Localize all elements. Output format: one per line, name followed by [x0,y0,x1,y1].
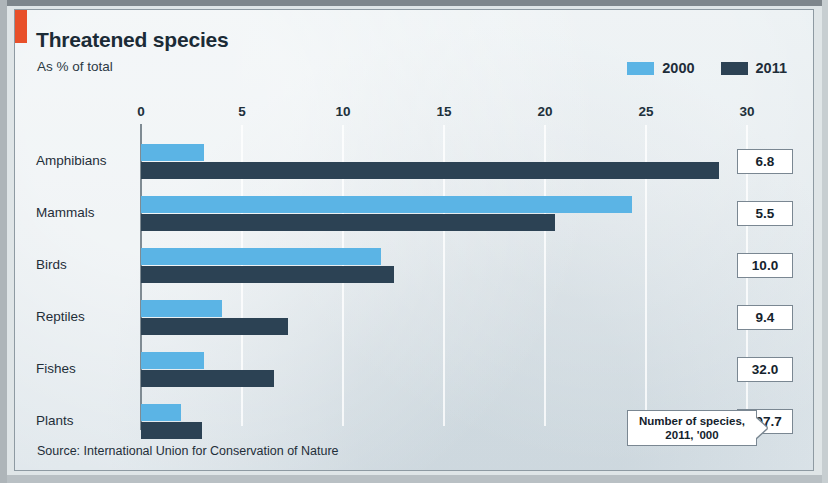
page-edge-left [0,0,7,483]
bar-birds-2000 [141,248,381,265]
bar-group-reptiles: Reptiles9.4 [15,300,814,340]
accent-tab [15,10,27,43]
category-label-fishes: Fishes [36,361,76,376]
species-count-box-mammals: 5.5 [737,201,793,226]
x-tick-label-15: 15 [436,104,451,119]
bar-group-fishes: Fishes32.0 [15,352,814,392]
bar-fishes-2000 [141,352,204,369]
plot-area: 051015202530 Amphibians6.8Mammals5.5Bird… [15,96,814,426]
chart-legend: 20002011 [627,60,787,76]
legend-label-2011: 2011 [756,60,787,76]
legend-item-2000: 2000 [627,60,694,76]
annotation-callout: Number of species, 2011, '000 [627,410,757,446]
bar-mammals-2011 [141,214,555,231]
source-note: Source: International Union for Conserva… [37,444,339,458]
page-edge-right [822,0,828,483]
legend-swatch-2000 [627,62,654,75]
x-tick-label-5: 5 [238,104,246,119]
bar-plants-2000 [141,404,181,421]
page-edge-bottom [0,475,828,483]
species-count-box-fishes: 32.0 [737,357,793,382]
bar-mammals-2000 [141,196,632,213]
annotation-line-2: 2011, '000 [665,428,718,442]
legend-item-2011: 2011 [721,60,787,76]
bar-plants-2011 [141,422,202,439]
species-count-box-amphibians: 6.8 [737,149,793,174]
x-tick-label-25: 25 [638,104,653,119]
bar-fishes-2011 [141,370,274,387]
legend-label-2000: 2000 [662,60,694,76]
chart-panel: Threatened species As % of total 2000201… [14,9,814,471]
legend-swatch-2011 [721,62,748,75]
chart-subtitle: As % of total [37,59,113,74]
chart-header: Threatened species As % of total 2000201… [15,10,814,96]
category-label-amphibians: Amphibians [36,153,107,168]
x-tick-label-20: 20 [537,104,552,119]
scanned-page: Threatened species As % of total 2000201… [0,0,828,483]
bar-group-birds: Birds10.0 [15,248,814,288]
bar-reptiles-2011 [141,318,288,335]
x-tick-label-30: 30 [739,104,754,119]
page-title: Threatened species [36,28,229,52]
bar-amphibians-2011 [141,162,719,179]
x-tick-label-10: 10 [335,104,350,119]
bar-amphibians-2000 [141,144,204,161]
category-label-mammals: Mammals [36,205,95,220]
category-label-birds: Birds [36,257,67,272]
x-tick-label-0: 0 [137,104,145,119]
bar-group-amphibians: Amphibians6.8 [15,144,814,184]
species-count-box-birds: 10.0 [737,253,793,278]
bar-birds-2011 [141,266,394,283]
category-label-reptiles: Reptiles [36,309,85,324]
page-edge-top [0,0,828,6]
bar-groups: Amphibians6.8Mammals5.5Birds10.0Reptiles… [15,126,814,426]
category-label-plants: Plants [36,413,74,428]
bar-group-mammals: Mammals5.5 [15,196,814,236]
species-count-box-reptiles: 9.4 [737,305,793,330]
annotation-line-1: Number of species, [639,414,745,428]
annotation-arrow-icon [756,418,767,438]
bar-reptiles-2000 [141,300,222,317]
